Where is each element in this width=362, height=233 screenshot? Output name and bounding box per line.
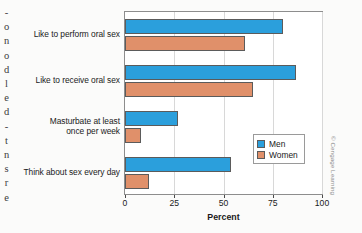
bar-men-0 xyxy=(125,19,283,34)
legend-label: Women xyxy=(269,150,298,160)
x-tick-label: 0 xyxy=(123,198,128,208)
legend-swatch-icon xyxy=(257,140,265,148)
x-tick-label: 25 xyxy=(169,198,179,208)
x-tick-label: 100 xyxy=(315,198,329,208)
x-axis-tick-labels: 0255075100 xyxy=(124,198,323,210)
bar-men-3 xyxy=(125,157,231,172)
bar-chart-figure: Like to perform oral sexLike to receive … xyxy=(0,0,362,233)
category-label-3: Think about sex every day xyxy=(14,167,120,177)
category-label-line: once per week xyxy=(14,126,120,136)
x-tick-label: 75 xyxy=(268,198,278,208)
bar-series-container xyxy=(125,12,322,194)
copyright-credit: © Cengage Learning xyxy=(330,136,337,195)
category-label-line: Think about sex every day xyxy=(14,167,120,177)
legend-swatch-icon xyxy=(257,151,265,159)
x-tick-label: 50 xyxy=(219,198,229,208)
category-label-line: Like to receive oral sex xyxy=(14,75,120,85)
plot-area xyxy=(124,11,323,195)
bar-women-2 xyxy=(125,128,141,143)
legend-item-men: Men xyxy=(257,138,300,149)
bar-women-3 xyxy=(125,174,149,189)
category-label-2: Masturbate at leastonce per week xyxy=(14,116,120,137)
chart-legend: MenWomen xyxy=(253,134,305,164)
legend-label: Men xyxy=(269,139,285,149)
category-axis-labels: Like to perform oral sexLike to receive … xyxy=(14,10,120,194)
bar-women-0 xyxy=(125,36,245,51)
bar-women-1 xyxy=(125,82,253,97)
legend-item-women: Women xyxy=(257,149,300,160)
category-label-1: Like to receive oral sex xyxy=(14,75,120,85)
gridline xyxy=(322,12,323,194)
category-label-0: Like to perform oral sex xyxy=(14,29,120,39)
category-label-line: Like to perform oral sex xyxy=(14,29,120,39)
x-axis-title: Percent xyxy=(124,212,323,222)
bar-men-1 xyxy=(125,65,296,80)
bar-men-2 xyxy=(125,111,178,126)
category-label-line: Masturbate at least xyxy=(14,116,120,126)
